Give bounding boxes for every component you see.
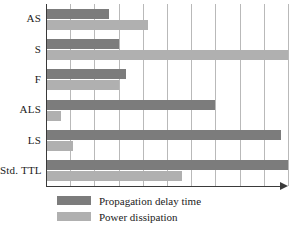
legend-item: Power dissipation [57,209,257,224]
category-label-als: ALS [0,104,41,115]
legend-item: Propagation delay time [57,193,257,208]
x-axis-arrow-icon [280,182,288,190]
category-label-std-ttl: Std. TTL [0,165,41,176]
legend-label: Propagation delay time [99,195,201,207]
y-axis-line [46,4,47,187]
bar [46,39,119,49]
gridline [191,4,192,186]
bar [46,141,73,151]
gridline [70,4,71,186]
bar [46,171,182,181]
category-label-f: F [0,74,41,85]
bar [46,20,148,30]
category-label-s: S [0,44,41,55]
bar [46,50,288,60]
bar [46,9,109,19]
bar [46,130,281,140]
bar [46,160,288,170]
gridline [288,4,289,186]
x-axis-line [46,186,281,187]
bar [46,100,215,110]
bar-chart: ASSFALSLSStd. TTL Propagation delay time… [0,0,303,232]
gridline [167,4,168,186]
legend-swatch-delay [57,196,91,205]
category-axis: ASSFALSLSStd. TTL [0,0,44,186]
legend-swatch-power [57,212,91,221]
chart-legend: Propagation delay timePower dissipation [57,193,257,225]
bar [46,111,61,121]
gridline [94,4,95,186]
legend-label: Power dissipation [99,211,178,223]
gridline [143,4,144,186]
bar [46,80,119,90]
plot-area [46,4,288,186]
gridline [240,4,241,186]
category-label-ls: LS [0,135,41,146]
gridline [215,4,216,186]
bar [46,69,126,79]
category-label-as: AS [0,13,41,24]
gridline [264,4,265,186]
gridline [119,4,120,186]
